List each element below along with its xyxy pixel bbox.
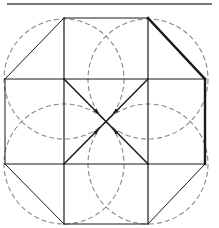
background (0, 0, 219, 228)
geometric-diagram (0, 0, 219, 228)
